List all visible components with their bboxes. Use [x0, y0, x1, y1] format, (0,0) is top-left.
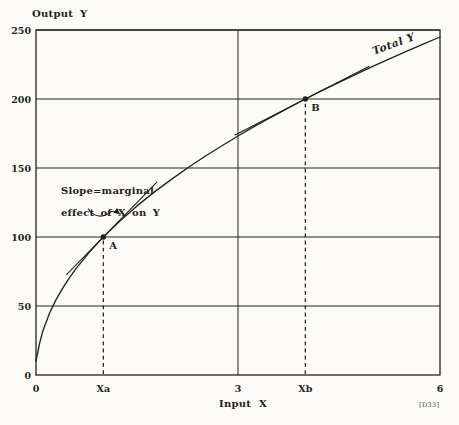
x-tick-6: 6 [437, 383, 444, 394]
slope-annotation-line2: effect of X on Y [61, 202, 160, 224]
textbook-figure: AB0501001502002500Xa3Xb6Total Y Output Y… [0, 0, 459, 425]
point-b-dot [303, 96, 308, 101]
y-tick-150: 150 [11, 163, 31, 174]
point-b-label: B [311, 102, 319, 113]
x-axis-title: Input X [210, 398, 276, 409]
figure-reference-tag: [D33] [419, 401, 440, 409]
x-tick-0: 0 [33, 383, 40, 394]
y-tick-100: 100 [11, 232, 31, 243]
y-tick-200: 200 [11, 94, 31, 105]
point-a-label: A [108, 240, 117, 251]
slope-annotation-line1: Slope=marginal [61, 180, 160, 202]
curve-name-label: Total Y [371, 30, 418, 57]
x-tick-Xa: Xa [97, 383, 111, 394]
y-tick-0: 0 [24, 370, 31, 381]
y-tick-50: 50 [18, 301, 32, 312]
x-tick-3: 3 [235, 383, 242, 394]
point-a-dot [101, 234, 106, 239]
y-axis-title: Output Y [32, 8, 88, 19]
x-tick-Xb: Xb [298, 383, 312, 394]
slope-annotation: Slope=marginal effect of X on Y [61, 180, 160, 224]
y-tick-250: 250 [11, 25, 31, 36]
